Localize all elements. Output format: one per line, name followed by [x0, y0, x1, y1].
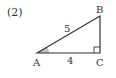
- side-label-ab: 5: [64, 23, 70, 34]
- problem-number: (2): [7, 6, 23, 19]
- vertex-label-a: A: [32, 57, 41, 68]
- right-angle-marker: [94, 47, 100, 53]
- triangle-abc: [37, 16, 100, 53]
- side-label-ac: 4: [67, 55, 73, 66]
- vertex-label-c: C: [96, 57, 104, 68]
- triangle-diagram: (2) A B C 5 4: [0, 0, 116, 78]
- vertex-label-b: B: [96, 4, 103, 15]
